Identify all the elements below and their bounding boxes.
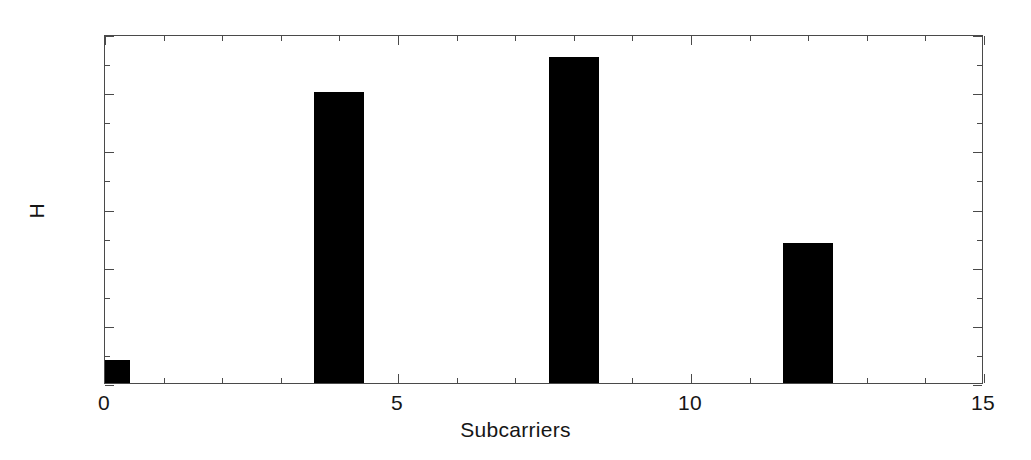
bar <box>783 243 833 383</box>
bar <box>549 57 599 383</box>
y-axis-tick <box>973 385 982 386</box>
x-axis-tick-label: 5 <box>357 392 437 413</box>
x-axis-tick-label: 0 <box>64 392 144 413</box>
bars-layer <box>105 36 982 383</box>
x-axis-tick-label: 10 <box>650 392 730 413</box>
plot-area <box>104 35 983 384</box>
x-axis-tick <box>984 374 985 383</box>
x-axis-title: Subcarriers <box>0 419 1031 441</box>
y-axis-tick <box>105 385 114 386</box>
bar <box>314 92 364 383</box>
y-axis-title: H <box>26 198 48 224</box>
x-axis-tick-label: 15 <box>943 392 1023 413</box>
bar-chart-figure: 00.511.522.53 051015 H Subcarriers <box>0 0 1031 460</box>
x-axis-tick <box>984 36 985 45</box>
bar <box>105 360 130 383</box>
